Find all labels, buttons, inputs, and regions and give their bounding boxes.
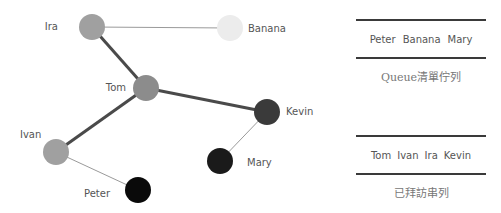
queue-items: Peter Banana Mary bbox=[356, 21, 486, 57]
node-label-peter: Peter bbox=[84, 188, 111, 199]
visited-item: Tom bbox=[371, 150, 391, 161]
visited-item: Ivan bbox=[397, 150, 418, 161]
node-mary bbox=[207, 148, 233, 174]
visited-item: Kevin bbox=[444, 150, 471, 161]
visited-panel: Tom Ivan Ira Kevin 已拜訪串列 bbox=[356, 135, 486, 200]
visited-caption: 已拜訪串列 bbox=[356, 184, 486, 200]
graph-edges bbox=[56, 27, 267, 190]
node-ira bbox=[79, 14, 105, 40]
node-tom bbox=[133, 75, 159, 101]
queue-panel: Peter Banana Mary Queue清單佇列 bbox=[356, 19, 486, 84]
node-label-mary: Mary bbox=[247, 157, 272, 168]
node-label-ira: Ira bbox=[45, 21, 58, 32]
edge-tom-kevin bbox=[146, 88, 267, 112]
graph-nodes: IraBananaTomKevinIvanMaryPeter bbox=[20, 14, 313, 203]
edge-tom-ivan bbox=[56, 88, 146, 152]
queue-caption: Queue清單佇列 bbox=[356, 68, 486, 84]
visited-items: Tom Ivan Ira Kevin bbox=[356, 137, 486, 173]
visited-item: Ira bbox=[425, 150, 438, 161]
node-kevin bbox=[254, 99, 280, 125]
node-label-banana: Banana bbox=[248, 23, 286, 34]
node-label-kevin: Kevin bbox=[286, 106, 313, 117]
graph-diagram: IraBananaTomKevinIvanMaryPeter bbox=[0, 0, 340, 213]
edge-ira-banana bbox=[92, 27, 230, 28]
queue-item: Mary bbox=[448, 34, 473, 45]
visited-bottom-rule bbox=[356, 173, 486, 175]
node-banana bbox=[217, 15, 243, 41]
edge-ivan-peter bbox=[56, 152, 138, 190]
queue-item: Peter bbox=[370, 34, 396, 45]
node-peter bbox=[125, 177, 151, 203]
queue-bottom-rule bbox=[356, 57, 486, 59]
node-label-ivan: Ivan bbox=[20, 129, 41, 140]
node-ivan bbox=[43, 139, 69, 165]
node-label-tom: Tom bbox=[105, 82, 126, 93]
queue-item: Banana bbox=[403, 34, 441, 45]
